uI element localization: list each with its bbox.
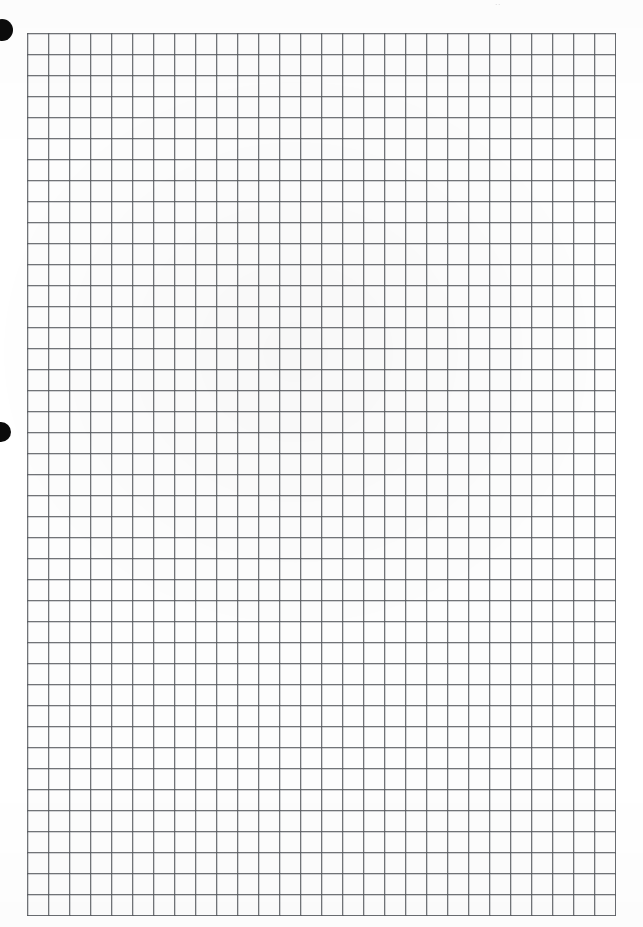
scanned-page: ··	[0, 0, 643, 927]
graph-paper-grid	[27, 33, 616, 916]
scan-artifact-top-text: ··	[495, 1, 501, 8]
